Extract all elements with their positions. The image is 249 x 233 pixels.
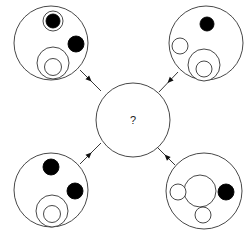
puzzle-diagram: ? (0, 0, 249, 233)
filled-dot (68, 36, 84, 52)
arrow-bottom-left (80, 143, 101, 164)
panel-top-left (14, 6, 88, 80)
panel-bottom-right (166, 153, 242, 229)
open-circle (195, 207, 211, 223)
open-circle (45, 59, 62, 76)
center-panel: ? (96, 83, 170, 157)
filled-dot (200, 17, 214, 31)
open-circle (172, 38, 188, 54)
arrow-top-left (80, 70, 101, 91)
panel-bottom-left (14, 153, 88, 227)
filled-dot (218, 184, 234, 200)
panel-top-right (169, 6, 243, 81)
open-circle (184, 175, 216, 207)
filled-dot (46, 14, 60, 28)
arrow-bottom-right (156, 146, 175, 165)
open-circle (170, 184, 186, 200)
open-circle (196, 61, 212, 77)
open-circle (44, 206, 61, 223)
arrow-top-right (159, 72, 178, 92)
filled-dot (43, 159, 59, 175)
filled-dot (67, 183, 83, 199)
question-mark: ? (130, 114, 136, 126)
